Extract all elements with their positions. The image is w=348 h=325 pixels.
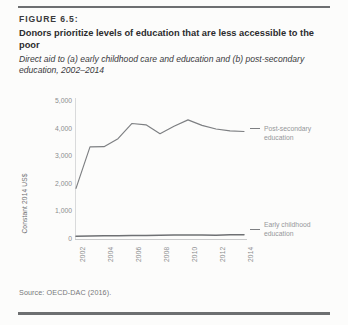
y-axis-label: Constant 2014 US$ (21, 164, 28, 244)
line-early-childhood (76, 235, 244, 237)
chart-svg (76, 100, 244, 238)
bottom-rule (18, 312, 330, 315)
figure-number: FIGURE 6.5: (19, 13, 331, 25)
figure-title: Donors prioritize levels of education th… (19, 27, 319, 52)
x-tick-2008: 2008 (163, 247, 170, 262)
legend-label-early-childhood: Early childhood education (264, 220, 336, 238)
top-rule (18, 6, 330, 8)
x-tick-2010: 2010 (191, 247, 198, 262)
figure-header: FIGURE 6.5: Donors prioritize levels of … (19, 13, 331, 77)
chart-container: Constant 2014 US$ 5,000 4,000 3,000 2,00… (0, 92, 348, 282)
x-tick-2014: 2014 (247, 247, 254, 262)
y-tick-3000: 3,000 (38, 152, 72, 159)
x-tick-2002: 2002 (79, 247, 86, 262)
line-post-secondary (76, 120, 244, 188)
legend-swatch-post-secondary (250, 128, 260, 129)
figure-card: FIGURE 6.5: Donors prioritize levels of … (0, 0, 348, 325)
y-tick-1000: 1,000 (38, 207, 72, 214)
legend-label-post-secondary: Post-secondary education (264, 124, 336, 142)
legend-swatch-early-childhood (250, 229, 260, 230)
y-tick-4000: 4,000 (38, 124, 72, 131)
x-axis-line (75, 239, 247, 240)
figure-subtitle: Direct aid to (a) early childhood care a… (19, 54, 315, 77)
x-tick-2004: 2004 (107, 247, 114, 262)
plot-area (76, 100, 244, 238)
y-tick-5000: 5,000 (38, 97, 72, 104)
y-tick-2000: 2,000 (38, 179, 72, 186)
y-tick-0: 0 (38, 235, 72, 242)
x-tick-2006: 2006 (135, 247, 142, 262)
x-tick-2012: 2012 (219, 247, 226, 262)
source-note: Source: OECD-DAC (2016). (19, 288, 111, 297)
y-axis-ticks: 5,000 4,000 3,000 2,000 1,000 0 (38, 92, 72, 282)
